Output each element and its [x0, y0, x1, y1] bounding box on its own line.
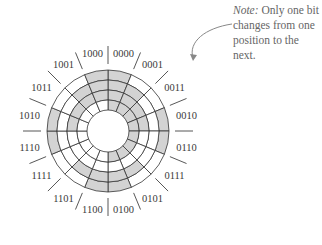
code-label: 0101 [142, 192, 163, 203]
sector-divider [170, 98, 187, 105]
code-label: 1101 [53, 192, 74, 203]
code-label: 0001 [142, 59, 163, 70]
sector-divider [134, 193, 141, 210]
code-label: 1001 [53, 59, 74, 70]
code-label: 0110 [176, 141, 197, 152]
code-label: 0010 [176, 110, 197, 121]
sector-divider [29, 98, 46, 105]
sector-divider [134, 52, 141, 69]
note-prefix: Note: [233, 4, 259, 16]
sector-divider [170, 157, 187, 164]
sector-divider [29, 157, 46, 164]
code-label: 0111 [164, 170, 184, 181]
code-label: 0100 [113, 204, 134, 215]
code-label: 1111 [32, 170, 52, 181]
code-label: 1011 [31, 81, 52, 92]
code-label: 1110 [19, 141, 39, 152]
note-arrow [192, 24, 232, 58]
code-label: 0000 [113, 47, 134, 58]
code-label: 1100 [82, 204, 103, 215]
note-annotation: Note: Only one bit changes from one posi… [233, 3, 322, 63]
code-label: 0011 [164, 81, 185, 92]
code-label: 1010 [19, 110, 40, 121]
code-label: 1000 [82, 47, 103, 58]
arrowhead-icon [190, 54, 197, 61]
